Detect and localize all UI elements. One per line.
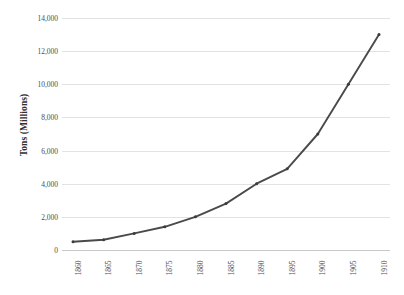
- y-axis-tick-labels: 02,0004,0006,0008,00010,00012,00014,000: [26, 0, 58, 295]
- data-point-marker: [72, 240, 75, 243]
- y-axis-tick-label: 12,000: [26, 47, 58, 56]
- data-point-marker: [225, 202, 228, 205]
- data-point-marker: [347, 83, 350, 86]
- y-axis-tick-label: 14,000: [26, 14, 58, 23]
- data-point-marker: [163, 225, 166, 228]
- data-point-marker: [378, 33, 381, 36]
- series-polyline: [73, 35, 379, 242]
- data-point-marker: [102, 238, 105, 241]
- x-axis-line: [62, 250, 390, 251]
- y-axis-tick-label: 4,000: [26, 179, 58, 188]
- x-axis-tick-labels: 1860186518701875188018851890189519001905…: [62, 252, 390, 295]
- y-axis-tick-label: 6,000: [26, 146, 58, 155]
- y-axis-tick-label: 0: [26, 246, 58, 255]
- y-axis-tick-label: 2,000: [26, 212, 58, 221]
- plot-area: [62, 18, 390, 250]
- series-line-tons-millions: [62, 18, 390, 250]
- y-axis-tick-label: 10,000: [26, 80, 58, 89]
- data-point-marker: [133, 232, 136, 235]
- data-point-marker: [316, 133, 319, 136]
- y-axis-tick-label: 8,000: [26, 113, 58, 122]
- line-chart-figure: Tons (Millions) 02,0004,0006,0008,00010,…: [0, 0, 404, 295]
- data-point-marker: [255, 182, 258, 185]
- data-point-marker: [194, 215, 197, 218]
- data-point-marker: [286, 167, 289, 170]
